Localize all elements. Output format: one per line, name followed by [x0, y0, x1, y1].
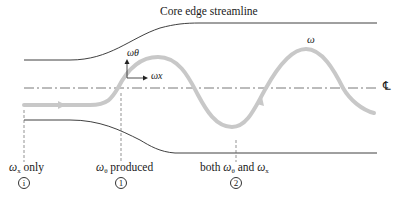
- vortex-direction-arrow-icon: [58, 101, 66, 109]
- omega-vector-label: ω⃗: [307, 34, 323, 45]
- omega-x-label: ωx: [151, 71, 163, 81]
- station-2-label: both ωθ and ωx: [200, 162, 269, 175]
- upper-core-edge-streamline: [24, 23, 377, 60]
- vortex-core-diagram: Core edge streamline ωθ ωx ω⃗ ℄ ωx only …: [0, 0, 404, 203]
- station-1-label: ωθ produced: [96, 162, 153, 175]
- station-1-marker: 1: [115, 177, 127, 189]
- arrowhead-right-icon: [143, 76, 148, 81]
- station-i-label: ωx only: [9, 162, 44, 175]
- centerline-symbol: ℄: [383, 80, 391, 92]
- station-2-marker: 2: [230, 177, 242, 189]
- omega-theta-label: ωθ: [127, 48, 139, 58]
- station-i-marker: i: [18, 177, 30, 189]
- core-edge-streamline-label: Core edge streamline: [160, 6, 258, 18]
- lower-core-edge-streamline: [24, 120, 377, 153]
- arrowhead-up-icon: [125, 59, 130, 64]
